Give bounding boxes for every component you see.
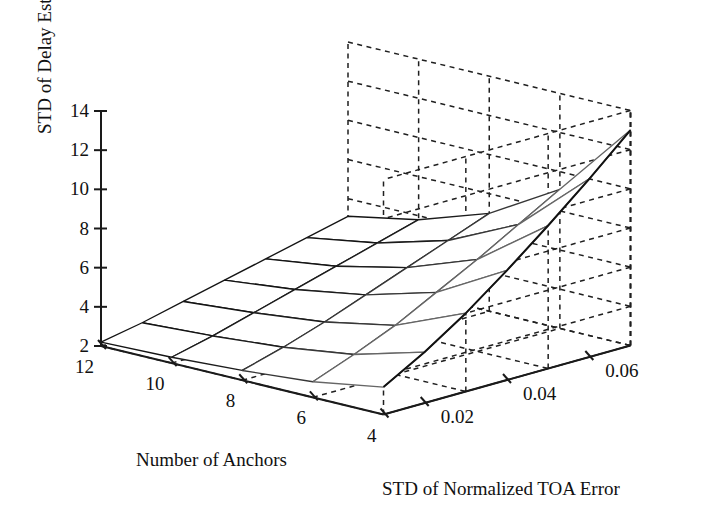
x-tick-label: 6 <box>296 407 306 429</box>
z-tick-label: 8 <box>80 218 90 240</box>
plot-canvas <box>0 0 708 530</box>
x-tick-label: 12 <box>75 356 94 378</box>
y-tick-label: 0.04 <box>523 383 556 405</box>
x-tick-label: 8 <box>226 390 236 412</box>
x-axis-label: Number of Anchors <box>136 449 287 471</box>
mesh-cell-outline <box>519 130 631 224</box>
figure-3d-surface: 14 12 10 8 6 4 2 12 10 8 6 4 0.02 0.04 0… <box>0 0 708 530</box>
x-tick-label: 4 <box>367 425 377 447</box>
z-tick-label: 12 <box>70 139 89 161</box>
y-tick-label: 0.02 <box>441 406 474 428</box>
z-tick-label: 6 <box>80 257 90 279</box>
y-tick-label: 0.06 <box>605 360 638 382</box>
x-tick-label: 10 <box>146 373 165 395</box>
z-tick-label: 10 <box>70 178 89 200</box>
y-axis-label: STD of Normalized TOA Error <box>382 478 620 500</box>
z-tick-label: 4 <box>80 296 90 318</box>
z-axis-label: STD of Delay Estimation (ns) <box>34 0 56 134</box>
z-tick-label: 14 <box>70 100 89 122</box>
z-tick-label: 2 <box>80 335 90 357</box>
